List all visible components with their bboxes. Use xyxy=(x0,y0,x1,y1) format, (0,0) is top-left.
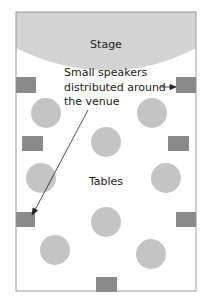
table xyxy=(31,98,61,128)
table xyxy=(136,239,166,269)
speaker xyxy=(168,136,189,151)
tables-label: Tables xyxy=(88,175,123,188)
table xyxy=(137,98,167,128)
annotation-line-3: the venue xyxy=(64,95,120,108)
table xyxy=(91,127,121,157)
table xyxy=(91,207,121,237)
table xyxy=(40,235,70,265)
annotation-line-2: distributed around xyxy=(64,81,166,94)
table xyxy=(26,163,56,193)
venue-diagram: Stage Small speakers distributed around … xyxy=(0,0,206,306)
speaker xyxy=(96,277,117,292)
table xyxy=(151,163,181,193)
speaker xyxy=(176,212,196,227)
stage-label: Stage xyxy=(90,38,122,51)
annotation-line-1: Small speakers xyxy=(64,66,148,79)
speaker xyxy=(22,136,43,151)
speaker xyxy=(176,77,196,93)
speaker xyxy=(16,77,36,93)
arrowhead-icon xyxy=(170,85,176,90)
